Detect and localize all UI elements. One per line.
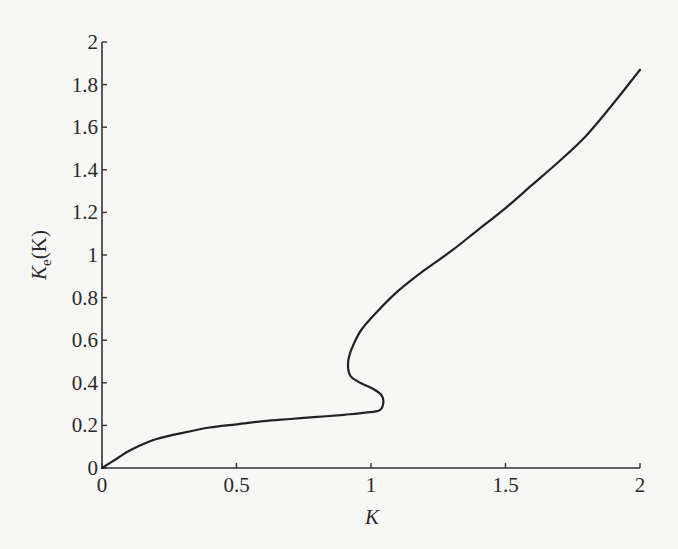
y-tick-label: 1.2 [72,200,98,224]
ke-curve [102,70,640,468]
y-tick-label: 0.6 [72,328,98,352]
x-tick-label: 1 [366,473,377,497]
x-axis-label: K [364,505,380,529]
y-tick-label: 1 [88,243,99,267]
chart: 00.20.40.60.811.21.41.61.82 00.511.52 K … [0,0,678,549]
y-tick-label: 0.4 [72,371,99,395]
y-tick-label: 1.8 [72,73,98,97]
x-tick-label: 1.5 [492,473,518,497]
y-axis-label: Ke(K) [27,230,54,281]
y-tick-label: 0.2 [72,413,98,437]
plot-area: 00.20.40.60.811.21.41.61.82 00.511.52 [72,30,646,497]
svg-text:Ke(K): Ke(K) [27,230,54,281]
y-tick-label: 1.4 [72,158,99,182]
y-tick-label: 2 [88,30,99,54]
y-label-arg: (K) [27,230,51,259]
y-tick-label: 0.8 [72,286,98,310]
x-tick-label: 0.5 [223,473,249,497]
y-label-main: K [27,265,51,281]
y-tick-label: 1.6 [72,115,98,139]
x-tick-label: 0 [97,473,108,497]
x-tick-label: 2 [635,473,646,497]
